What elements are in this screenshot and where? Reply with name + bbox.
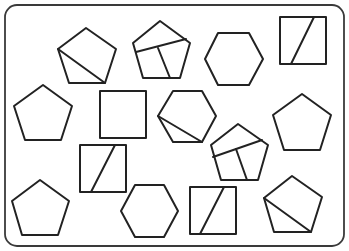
- square-outline: [100, 91, 146, 138]
- square-shape: [80, 145, 126, 192]
- shapes-diagram: [0, 0, 349, 251]
- square-shape: [190, 187, 236, 234]
- hexagon-outline: [205, 33, 263, 85]
- shapes-group: [12, 17, 331, 237]
- hexagon-shape: [205, 33, 263, 85]
- square-shape: [280, 17, 326, 64]
- diagram-svg: [0, 0, 349, 251]
- square-shape: [100, 91, 146, 138]
